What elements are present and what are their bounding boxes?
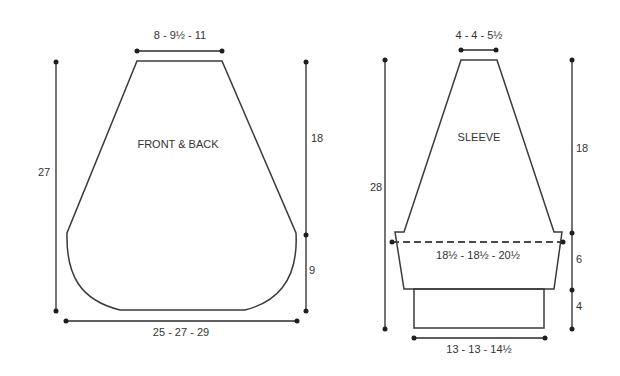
schematic-diagram: FRONT & BACK 8 - 9½ - 11 27 18 9 [0,0,620,376]
front-back-bottom-width-dimension: 25 - 27 - 29 [64,319,300,339]
sleeve-top-width-label: 4 - 4 - 5½ [455,29,502,41]
sleeve-upper-arm-label: 18½ - 18½ - 20½ [436,249,520,261]
sleeve-length-dimension: 28 [370,58,388,332]
sleeve-top-width-dimension: 4 - 4 - 5½ [455,29,502,53]
sleeve-title: SLEEVE [458,131,501,143]
sleeve-middle-height-label: 6 [576,253,582,265]
sleeve-cuff-height-label: 4 [576,300,582,312]
sleeve-upper-length-label: 18 [576,142,588,154]
front-back-outline [67,61,296,310]
front-back-right-dimensions: 18 9 [304,60,324,314]
front-back-title: FRONT & BACK [137,138,219,150]
front-back-bottom-width-label: 25 - 27 - 29 [153,326,209,338]
sleeve-cuff [414,289,544,328]
front-back-length-label: 27 [38,166,50,178]
sleeve-right-dimensions: 18 6 4 [570,58,589,332]
front-back-lower-height-label: 9 [309,264,315,276]
sleeve-cuff-width-label: 13 - 13 - 14½ [446,343,511,355]
sleeve-piece: SLEEVE 18½ - 18½ - 20½ 4 - 4 - 5½ 28 18 … [370,29,588,355]
front-back-top-width-label: 8 - 9½ - 11 [154,29,206,41]
sleeve-length-label: 28 [370,181,382,193]
front-back-top-width-dimension: 8 - 9½ - 11 [135,29,225,54]
sleeve-cuff-width-dimension: 13 - 13 - 14½ [412,336,548,356]
front-back-piece: FRONT & BACK 8 - 9½ - 11 27 18 9 [38,29,323,338]
front-back-length-dimension: 27 [38,60,59,314]
front-back-armhole-label: 18 [311,132,323,144]
